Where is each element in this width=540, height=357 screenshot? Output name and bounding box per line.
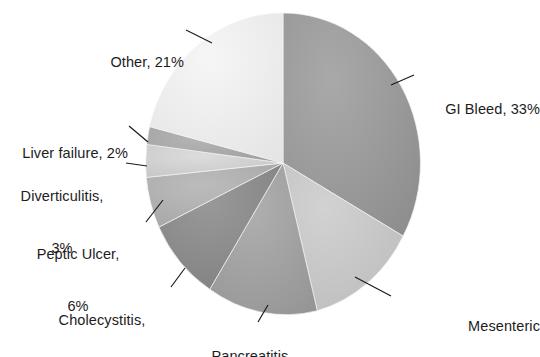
pie-label-pancreatitis: Pancreatitis, 13%	[190, 313, 314, 357]
leader-line-cholecystitis	[171, 268, 185, 287]
pie-label-gi-bleed-text: GI Bleed, 33%	[424, 101, 540, 118]
pie-label-mesenteric-ischemia: Mesenteric ischemia, 13%	[398, 283, 540, 357]
pie-label-other-text: Other, 21%	[0, 54, 184, 71]
pie-slices-group	[146, 13, 421, 315]
pie-label-cholecystitis: Cholecystitis, 9%	[40, 277, 164, 357]
leader-line-other	[186, 30, 212, 43]
pie-chart-figure: Other, 21% Liver failure, 2% Diverticuli…	[0, 0, 540, 357]
pie-label-cholecystitis-line1: Cholecystitis,	[40, 312, 164, 329]
pie-label-other: Other, 21%	[0, 19, 184, 106]
leader-line-liver-failure	[129, 126, 148, 142]
pie-label-gi-bleed: GI Bleed, 33%	[424, 66, 540, 153]
pie-label-peptic-ulcer-line1: Peptic Ulcer,	[16, 246, 140, 263]
pie-label-diverticulitis-line1: Diverticulitis,	[0, 188, 124, 205]
leader-line-diverticulitis	[126, 163, 147, 166]
pie-label-pancreatitis-line1: Pancreatitis,	[190, 348, 314, 357]
pie-label-mesenteric-ischemia-line1: Mesenteric	[398, 318, 540, 335]
